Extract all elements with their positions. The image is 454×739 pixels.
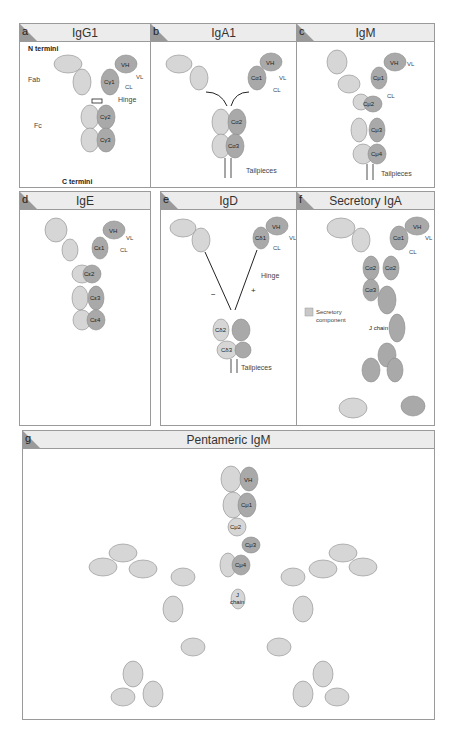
igg1-diagram: N termini VH Cγ1 Cγ2 Cγ3 VL CL Hinge Fab… [20,42,150,187]
svg-text:VL: VL [289,235,296,241]
svg-text:CL: CL [120,247,128,253]
panel-title: IgE [20,194,150,208]
svg-text:Cμ2: Cμ2 [230,524,242,530]
svg-text:Cμ4: Cμ4 [371,151,383,157]
panel-header: a IgG1 [20,24,150,42]
svg-text:VH: VH [413,224,421,230]
svg-text:CL: CL [273,245,281,251]
secretory-component-swatch [305,308,313,316]
svg-text:VL: VL [407,61,415,67]
j-chain-label: J chain [369,325,388,331]
tailpieces-label: Tailpieces [246,167,277,175]
panel-igg1: a IgG1 N termini VH Cγ1 Cγ2 Cγ3 VL CL Hi… [19,23,151,188]
svg-text:VH: VH [272,224,280,230]
svg-text:Cα3: Cα3 [365,287,377,293]
panel-header: d IgE [20,192,150,210]
svg-text:Cμ3: Cμ3 [371,127,383,133]
svg-text:VL: VL [279,75,287,81]
panel-ige: d IgE VH Cε1 Cε2 Cε3 Cε4 VL CL [19,191,151,426]
svg-text:Cμ4: Cμ4 [235,562,247,568]
svg-text:CL: CL [409,249,417,255]
svg-text:Secretory: Secretory [316,309,342,315]
hinge-label: Hinge [261,272,279,280]
panel-title: IgA1 [151,26,296,40]
panel-igd: e IgD VH Cδ1 Cδ2 Cδ3 VL CL Hinge Tailpie… [160,191,297,426]
svg-text:Cα2: Cα2 [231,119,243,125]
svg-text:CL: CL [273,87,281,93]
panel-title: IgM [297,26,434,40]
n-termini-label: N termini [28,45,58,52]
panel-header: g Pentameric IgM [23,431,434,449]
svg-text:Cδ1: Cδ1 [255,235,267,241]
igd-diagram: VH Cδ1 Cδ2 Cδ3 VL CL Hinge Tailpieces − … [161,210,296,425]
svg-text:Cγ1: Cγ1 [104,79,115,85]
svg-text:J: J [236,592,239,598]
svg-text:VH: VH [390,60,398,66]
panel-header: e IgD [161,192,296,210]
svg-text:Cμ1: Cμ1 [241,502,253,508]
pentameric-igm-diagram: VH Cμ1 Cμ2 Cμ3 Cμ4 J chain [23,449,434,719]
svg-text:Cδ3: Cδ3 [221,347,233,353]
svg-text:chain: chain [230,599,244,605]
svg-text:VH: VH [266,60,274,66]
panel-iga1: b IgA1 VH Cα1 Cα2 Cα3 VL CL Tailpieces [150,23,297,188]
tailpieces-label: Tailpieces [241,364,272,372]
svg-text:VH: VH [121,62,129,68]
svg-text:Cε3: Cε3 [90,295,101,301]
iga1-diagram: VH Cα1 Cα2 Cα3 VL CL Tailpieces [151,42,296,187]
svg-text:Cε2: Cε2 [84,271,95,277]
ige-diagram: VH Cε1 Cε2 Cε3 Cε4 VL CL [20,210,150,425]
igm-diagram: VH Cμ1 Cμ2 Cμ3 Cμ4 VL CL Tailpieces [297,42,434,187]
svg-text:Cγ3: Cγ3 [100,137,111,143]
svg-text:VL: VL [425,235,433,241]
svg-text:Cδ2: Cδ2 [215,327,227,333]
svg-text:VH: VH [109,228,117,234]
panel-header: f Secretory IgA [297,192,434,210]
svg-text:Cα2: Cα2 [365,265,377,271]
c-termini-label: C termini [62,178,92,185]
svg-text:Cμ2: Cμ2 [363,101,375,107]
panel-title: Secretory IgA [297,194,434,208]
svg-text:CL: CL [125,84,133,90]
svg-text:CL: CL [387,93,395,99]
secretory-iga-diagram: Secretory component VH Cα1 Cα2 Cα2 Cα3 J… [297,210,434,425]
fc-label: Fc [34,122,42,129]
panel-pentameric-igm: g Pentameric IgM VH Cμ1 Cμ2 Cμ3 Cμ4 [22,430,435,720]
svg-text:Cμ3: Cμ3 [245,542,257,548]
panel-title: IgD [161,194,296,208]
svg-text:Cγ2: Cγ2 [100,114,111,120]
panel-title: IgG1 [20,26,150,40]
svg-text:+: + [251,286,256,295]
svg-text:Cε1: Cε1 [94,245,105,251]
svg-text:Cμ1: Cμ1 [373,75,385,81]
svg-text:Cα1: Cα1 [393,235,405,241]
svg-text:Cα2: Cα2 [385,265,397,271]
svg-text:VL: VL [126,235,134,241]
panel-title: Pentameric IgM [23,433,434,447]
panel-header: b IgA1 [151,24,296,42]
fab-label: Fab [28,76,40,83]
tailpieces-label: Tailpieces [381,170,412,178]
hinge-label: Hinge [118,96,136,104]
svg-text:component: component [316,317,346,323]
svg-text:−: − [211,290,216,299]
svg-text:VL: VL [136,74,144,80]
panel-igm: c IgM VH Cμ1 Cμ2 Cμ3 Cμ4 VL CL Tailpiece… [296,23,435,188]
svg-text:VH: VH [244,477,252,483]
panel-secretory-iga: f Secretory IgA Secretory component VH C… [296,191,435,426]
svg-text:Cα3: Cα3 [228,143,240,149]
svg-text:Cα1: Cα1 [251,75,263,81]
svg-text:Cε4: Cε4 [90,317,101,323]
panel-header: c IgM [297,24,434,42]
